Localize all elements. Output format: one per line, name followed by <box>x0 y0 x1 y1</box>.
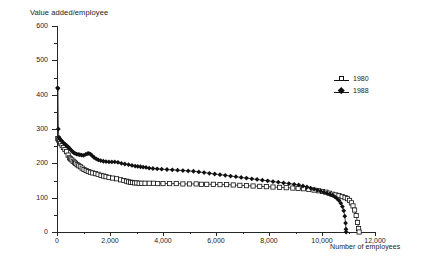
data-point-marker <box>239 175 244 180</box>
data-point-marker <box>233 174 238 179</box>
data-point-marker <box>249 176 254 181</box>
data-point-marker <box>265 178 270 183</box>
data-point-marker <box>260 178 265 183</box>
series-1980 <box>56 137 362 235</box>
data-point-marker <box>161 181 165 185</box>
data-point-marker <box>205 182 209 186</box>
data-point-marker <box>228 174 233 179</box>
data-point-marker <box>186 168 191 173</box>
data-point-marker <box>271 179 276 184</box>
chart-figure: Value added/employee Number of employees… <box>0 0 433 272</box>
data-point-marker <box>196 170 201 175</box>
data-point-marker <box>56 127 61 132</box>
data-point-marker <box>291 186 295 190</box>
data-point-marker <box>341 208 346 213</box>
data-point-marker <box>180 168 185 173</box>
data-point-marker <box>354 213 358 217</box>
data-point-marker <box>223 173 228 178</box>
data-point-marker <box>156 181 160 185</box>
data-point-marker <box>238 183 242 187</box>
legend-label: 1980 <box>353 75 369 82</box>
data-point-marker <box>168 181 172 185</box>
data-point-marker <box>296 186 300 190</box>
data-point-marker <box>357 230 361 234</box>
data-point-marker <box>352 208 356 212</box>
data-point-marker <box>271 185 275 189</box>
data-point-marker <box>151 166 156 171</box>
legend-label: 1988 <box>353 87 369 94</box>
data-point-marker <box>251 184 255 188</box>
data-point-marker <box>207 171 212 176</box>
data-point-marker <box>218 183 222 187</box>
data-point-marker <box>126 162 131 167</box>
data-point-marker <box>244 176 249 181</box>
series-curves <box>0 0 433 272</box>
data-point-marker <box>342 214 347 219</box>
data-point-marker <box>119 161 124 166</box>
data-point-marker <box>281 181 286 186</box>
data-point-marker <box>258 184 262 188</box>
series-1988 <box>55 85 348 234</box>
data-point-marker <box>351 204 355 208</box>
data-point-marker <box>175 168 180 173</box>
data-point-marker <box>174 181 178 185</box>
data-point-marker <box>212 172 217 177</box>
data-point-marker <box>355 220 359 224</box>
data-point-marker <box>199 182 203 186</box>
data-point-marker <box>122 162 127 167</box>
open-square-marker-icon <box>339 76 344 81</box>
data-point-marker <box>278 185 282 189</box>
data-point-marker <box>202 170 207 175</box>
data-point-marker <box>211 182 215 186</box>
data-point-marker <box>181 182 185 186</box>
data-point-marker <box>225 183 229 187</box>
data-point-marker <box>343 221 348 226</box>
data-point-marker <box>151 181 155 185</box>
data-point-marker <box>155 166 160 171</box>
data-point-marker <box>165 167 170 172</box>
data-point-marker <box>116 160 121 165</box>
data-point-marker <box>191 169 196 174</box>
data-point-marker <box>344 230 349 235</box>
data-point-marker <box>111 176 115 180</box>
data-point-marker <box>284 186 288 190</box>
data-point-marker <box>276 180 281 185</box>
data-point-marker <box>255 177 260 182</box>
data-point-marker <box>194 182 198 186</box>
data-point-marker <box>147 181 151 185</box>
data-point-marker <box>264 185 268 189</box>
data-point-marker <box>143 181 147 185</box>
data-point-marker <box>218 172 223 177</box>
data-point-marker <box>159 167 164 172</box>
data-point-marker <box>231 183 235 187</box>
data-point-marker <box>244 184 248 188</box>
data-point-marker <box>187 182 191 186</box>
data-point-marker <box>170 167 175 172</box>
